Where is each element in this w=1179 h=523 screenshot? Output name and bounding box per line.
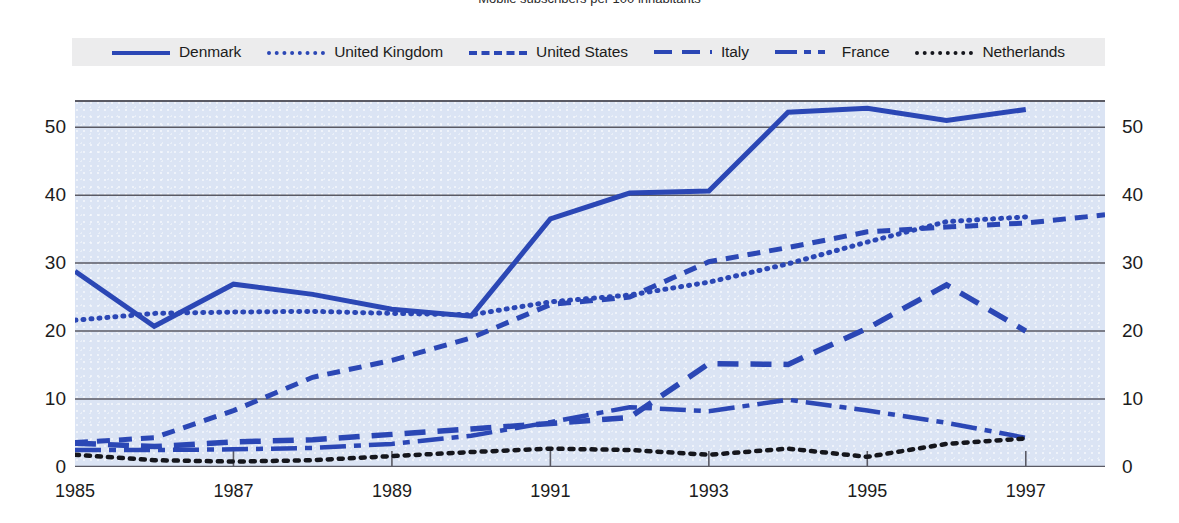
chart-title-strip: Mobile subscribers per 100 inhabitants [0, 0, 1179, 9]
y-axis-label-left: 40 [45, 185, 66, 204]
y-axis-label-left: 30 [45, 253, 66, 272]
y-axis-label-left: 0 [55, 457, 66, 476]
x-axis-label: 1993 [689, 482, 729, 500]
series-line-united-states [75, 215, 1105, 443]
y-axis-label-right: 10 [1122, 389, 1143, 408]
x-axis-label: 1985 [55, 482, 95, 500]
y-axis-label-left: 10 [45, 389, 66, 408]
line-dashdot-icon [775, 45, 833, 59]
y-axis-label-left: 20 [45, 321, 66, 340]
y-axis-label-right: 50 [1122, 117, 1143, 136]
legend-label: Netherlands [982, 43, 1064, 61]
y-axis-label-right: 20 [1122, 321, 1143, 340]
x-axis-label: 1997 [1006, 482, 1046, 500]
line-dotted-icon [267, 45, 325, 59]
legend-label: Denmark [179, 43, 241, 61]
legend-label: United Kingdom [334, 43, 443, 61]
legend-label: Italy [721, 43, 749, 61]
legend-label: United States [536, 43, 628, 61]
legend-item-united-states[interactable]: United States [469, 43, 628, 61]
page-title: Mobile subscribers per 100 inhabitants [0, 0, 1179, 6]
legend-label: France [842, 43, 890, 61]
plot-lines [75, 100, 1105, 467]
y-axis-label-left: 50 [45, 117, 66, 136]
plot-area [75, 100, 1105, 467]
legend-item-denmark[interactable]: Denmark [112, 43, 241, 61]
x-axis-label: 1987 [213, 482, 253, 500]
legend-item-netherlands[interactable]: Netherlands [915, 43, 1064, 61]
chart-figure: Mobile subscribers per 100 inhabitants D… [0, 0, 1179, 523]
line-solid-icon [112, 45, 170, 59]
line-black-dotted-icon [915, 45, 973, 59]
line-dashed-icon [469, 45, 527, 59]
x-axis-label: 1995 [847, 482, 887, 500]
legend-item-italy[interactable]: Italy [654, 43, 749, 61]
x-axis-label: 1991 [530, 482, 570, 500]
chart-legend: DenmarkUnited KingdomUnited StatesItalyF… [72, 38, 1105, 66]
legend-item-france[interactable]: France [775, 43, 890, 61]
x-axis-label: 1989 [372, 482, 412, 500]
legend-item-united-kingdom[interactable]: United Kingdom [267, 43, 443, 61]
line-longdash-icon [654, 45, 712, 59]
y-axis-label-right: 0 [1122, 457, 1133, 476]
y-axis-label-right: 40 [1122, 185, 1143, 204]
y-axis-label-right: 30 [1122, 253, 1143, 272]
series-line-denmark [75, 108, 1026, 326]
